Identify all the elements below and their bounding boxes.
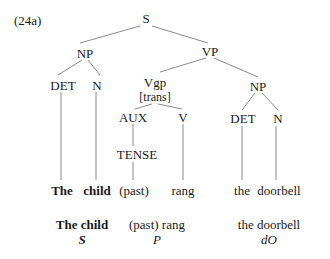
node-np-subject: NP [77,47,94,60]
node-n-object: N [273,112,282,125]
node-vgp-feature: [trans] [139,91,170,103]
node-v: V [178,111,187,124]
function-role-predicate: P [153,233,161,246]
word-rang: rang [171,184,194,197]
function-phrase-direct-object: the doorbell [238,218,300,231]
node-aux: AUX [119,111,147,124]
function-phrase-subject: The child [56,218,108,231]
node-vgp: Vgp [144,76,166,89]
word-the-subject: The [51,184,73,197]
node-vp: VP [202,45,219,58]
node-det-subject: DET [50,79,75,92]
node-n-subject: N [92,79,101,92]
node-s: S [142,12,149,25]
word-doorbell: doorbell [257,184,300,197]
node-tense: TENSE [117,148,157,161]
function-phrase-predicate: (past) rang [129,218,185,231]
word-child: child [83,184,110,197]
example-number: (24a) [14,13,41,29]
function-role-direct-object: dO [261,233,277,246]
word-the-object: the [234,184,250,197]
node-det-object: DET [230,112,255,125]
function-role-subject: S [78,233,85,246]
node-np-object: NP [250,80,267,93]
word-past: (past) [119,184,149,197]
